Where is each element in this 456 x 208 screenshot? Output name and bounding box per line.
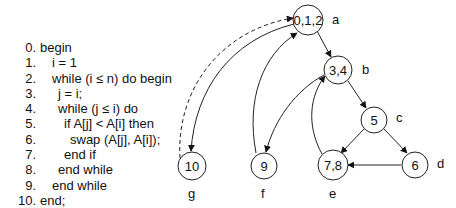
edge-c-d [384,129,407,153]
edge-b-f [266,75,324,152]
graph-node-b: 3,4b [324,56,369,84]
edge-c-e [341,129,364,153]
control-flow-graph: 0,1,2a3,4b5c6d7,8e9f10g [0,0,456,208]
node-label: 9 [260,159,267,174]
graph-node-d: 6d [402,152,444,178]
graph-node-g: 10g [178,152,206,201]
edge-f-a [253,33,297,153]
node-name: c [396,110,403,125]
node-label: 5 [370,113,377,128]
node-name: e [329,186,336,201]
graph-node-f: 9f [251,153,277,201]
node-label: 7,8 [324,158,342,173]
edge-b-c [348,81,366,108]
node-name: b [362,62,369,77]
edge-e-b [312,76,325,154]
node-name: d [437,156,444,171]
graph-node-e: 7,8e [318,150,348,201]
edge-a-g [191,24,294,151]
edge-a-b [317,31,331,57]
node-label: 10 [185,159,199,174]
node-name: g [188,186,195,201]
graph-node-c: 5c [361,107,403,133]
graph-node-a: 0,1,2a [293,5,340,35]
node-label: 3,4 [329,63,347,78]
node-name: f [261,186,265,201]
node-label: 6 [411,158,418,173]
node-name: a [332,12,340,27]
node-label: 0,1,2 [294,13,323,28]
edge-g-a-dashed [180,18,293,158]
